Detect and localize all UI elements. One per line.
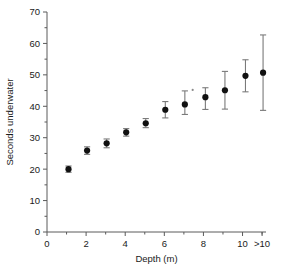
y-tick-label-70: 70	[29, 6, 40, 17]
x-tick-label-8: 8	[201, 238, 206, 249]
marker-circle	[84, 148, 90, 154]
data-point-1	[65, 166, 71, 172]
marker-circle	[123, 129, 129, 135]
data-point-3	[104, 139, 110, 148]
chart-figure: 0102030405060700246810>10Depth (m)Second…	[0, 0, 281, 267]
data-point-4	[123, 129, 129, 137]
marker-circle	[143, 120, 149, 126]
data-point-7	[182, 91, 188, 115]
stray-mark-icon	[192, 89, 194, 91]
marker-circle	[104, 140, 110, 146]
y-axis-title-text: Seconds underwater	[4, 78, 15, 165]
y-tick-label-10: 10	[29, 195, 40, 206]
marker-circle	[65, 166, 71, 172]
data-series	[65, 35, 266, 172]
y-tick-label-60: 60	[29, 38, 40, 49]
axes	[43, 12, 266, 236]
y-tick-label-40: 40	[29, 101, 40, 112]
data-point->10	[260, 35, 266, 110]
y-tick-label-50: 50	[29, 69, 40, 80]
scatter-plot-with-error-bars: 0102030405060700246810>10Depth (m)Second…	[0, 0, 281, 267]
y-tick-label-30: 30	[29, 132, 40, 143]
x-axis-title-text: Depth (m)	[135, 253, 177, 264]
data-point-6	[162, 102, 168, 118]
data-point-5	[143, 119, 149, 128]
x-tick-label-0: 0	[44, 238, 49, 249]
marker-circle	[242, 73, 248, 79]
marker-circle	[162, 107, 168, 113]
x-tick-label-2: 2	[83, 238, 88, 249]
y-tick-label-0: 0	[35, 226, 40, 237]
x-tick-label-10: 10	[237, 238, 248, 249]
y-tick-label-20: 20	[29, 164, 40, 175]
marker-circle	[202, 94, 208, 100]
data-point-9	[222, 71, 228, 109]
marker-circle	[222, 87, 228, 93]
x-tick-label-6: 6	[162, 238, 167, 249]
data-point-8	[202, 88, 208, 110]
axis-labels: 0102030405060700246810>10Depth (m)Second…	[4, 6, 270, 264]
x-tick-label->10: >10	[254, 238, 270, 249]
marker-circle	[182, 101, 188, 107]
x-tick-label-4: 4	[123, 238, 128, 249]
data-point-10	[242, 60, 248, 92]
marker-circle	[260, 70, 266, 76]
data-point-2	[84, 147, 90, 155]
